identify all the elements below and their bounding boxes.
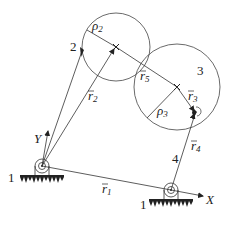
label-r3: r3 (188, 88, 198, 104)
label-link-2: 2 (70, 39, 77, 54)
link-2 (42, 51, 82, 166)
label-axis-y: Y (34, 131, 43, 146)
label-rho2: ρ2 (91, 18, 103, 34)
link-4-joint (192, 108, 197, 117)
svg-text:r3: r3 (188, 88, 198, 104)
link-4-joint-arc (196, 107, 201, 116)
label-ground-right: 1 (140, 197, 147, 212)
label-r2: r2 (88, 88, 98, 104)
label-link-3: 3 (197, 63, 204, 78)
mechanism-diagram: 2 3 4 1 1 X Y ρ2 ρ3 r1 r2 r3 r4 r5 (0, 0, 229, 225)
label-link-4: 4 (172, 151, 179, 166)
label-rho3: ρ3 (156, 103, 168, 119)
svg-text:r5: r5 (140, 68, 150, 84)
svg-text:r4: r4 (191, 138, 201, 154)
r2-vector (42, 49, 114, 166)
label-r1: r1 (102, 181, 112, 197)
ground-pivot-right (149, 183, 193, 207)
svg-text:r2: r2 (88, 88, 98, 104)
label-r4: r4 (191, 138, 201, 154)
svg-text:r1: r1 (102, 181, 112, 197)
label-axis-x: X (205, 192, 215, 207)
ground-pivot-left (20, 159, 64, 183)
label-ground-left: 1 (8, 170, 15, 185)
label-r5: r5 (140, 68, 150, 84)
